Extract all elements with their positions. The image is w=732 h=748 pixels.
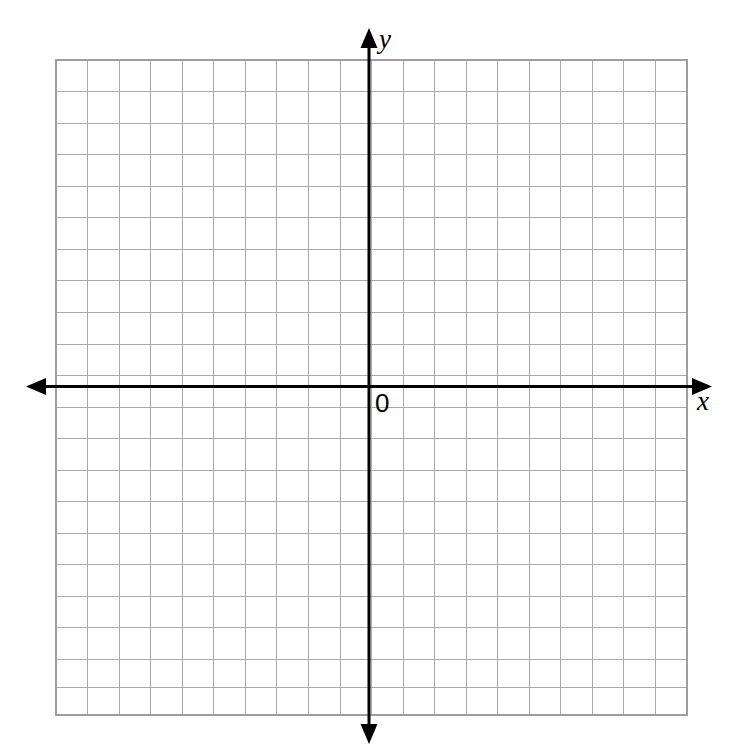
x-axis-label: x bbox=[697, 388, 709, 415]
coordinate-plane-canvas bbox=[0, 0, 732, 748]
arrow-up-icon bbox=[361, 28, 378, 48]
arrow-down-icon bbox=[361, 724, 378, 744]
coordinate-plane-figure: y x 0 bbox=[0, 0, 732, 748]
origin-label: 0 bbox=[375, 390, 389, 416]
y-axis-label: y bbox=[379, 26, 391, 53]
axes bbox=[33, 35, 704, 736]
arrow-left-icon bbox=[26, 378, 46, 395]
